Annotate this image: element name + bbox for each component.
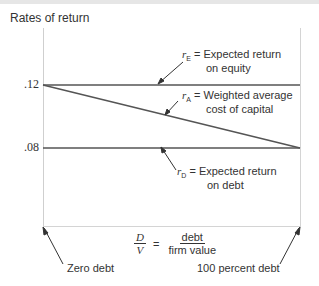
equals-sign: = [153,238,159,250]
zero-debt-label: Zero debt [67,262,114,275]
tick-012: .12 [24,78,39,91]
x-axis-label: D V = debt firm value [130,231,222,256]
numerator: debt [180,231,205,244]
full-debt-arrowhead-icon [295,227,300,235]
debt-fraction: debt firm value [166,231,218,256]
rd-text-1: = Expected return [189,165,276,177]
ra-subscript: A [186,96,191,103]
d-symbol: D [134,231,146,244]
tick-008: .08 [24,141,39,154]
ra-text-2: cost of capital [206,103,273,116]
rd-subscript: D [181,172,186,179]
y-axis-label: Rates of return [10,12,89,25]
full-debt-label: 100 percent debt [197,262,280,275]
ra-text-1: = Weighted average [194,89,293,101]
v-symbol: V [135,244,146,256]
re-text-1: = Expected return [194,48,281,60]
denominator: firm value [166,244,218,256]
re-text-2: on equity [206,62,251,75]
re-subscript: E [186,55,191,62]
dv-fraction: D V [134,231,146,256]
rd-text-2: on debt [207,179,244,192]
zero-debt-arrowhead-icon [43,227,48,235]
